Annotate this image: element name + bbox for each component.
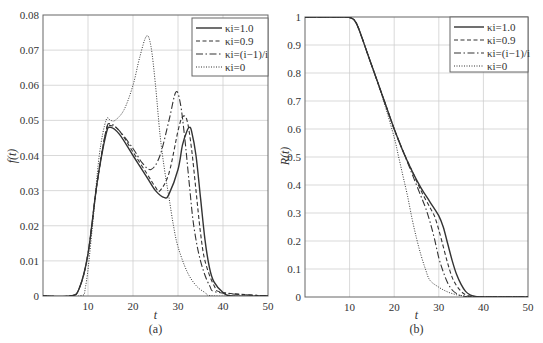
y-tick-label: 0.02 (20, 220, 39, 232)
y-tick-label: 0 (296, 291, 302, 303)
legend-label: κi=(i−1)/i (225, 48, 268, 61)
x-tick-label: 40 (478, 301, 490, 313)
y-tick-label: 0.08 (20, 9, 40, 21)
x-axis-label: t (415, 308, 419, 322)
y-tick-label: 0.8 (287, 67, 301, 79)
legend-label: κi=0.9 (487, 34, 516, 46)
legend: κi=1.0κi=0.9κi=(i−1)/iκi=0 (192, 18, 268, 76)
y-tick-label: 0.4 (287, 179, 301, 191)
panel-caption: (a) (149, 322, 162, 336)
x-tick-label: 30 (173, 300, 185, 312)
x-tick-label: 20 (389, 301, 401, 313)
y-axis-label: f(t) (5, 149, 19, 164)
x-axis-label: t (154, 308, 158, 322)
legend-label: κi=1.0 (487, 21, 516, 33)
y-tick-label: 0.05 (20, 114, 40, 126)
legend-label: κi=(i−1)/i (487, 47, 530, 60)
y-axis-label: R(t) (278, 147, 292, 167)
y-tick-label: 0.6 (287, 123, 301, 135)
x-tick-label: 20 (128, 300, 140, 312)
x-tick-label: 40 (218, 300, 230, 312)
series-line-dashdot (43, 92, 268, 297)
legend-label: κi=0.9 (225, 35, 254, 47)
y-tick-label: 0.07 (20, 44, 40, 56)
series-line-dashed (43, 116, 268, 297)
x-tick-label: 50 (523, 301, 535, 313)
x-tick-label: 10 (83, 300, 95, 312)
chart-panel-b: 102030405000.10.20.30.40.50.60.70.80.91t… (278, 11, 534, 336)
legend-label: κi=0 (225, 61, 246, 73)
legend-label: κi=1.0 (225, 22, 254, 34)
y-tick-label: 0.06 (20, 79, 40, 91)
series-line-solid (43, 127, 268, 296)
y-tick-label: 0.2 (287, 235, 301, 247)
legend: κi=1.0κi=0.9κi=(i−1)/iκi=0 (450, 17, 530, 72)
y-tick-label: 0.1 (287, 263, 301, 275)
x-tick-label: 50 (263, 300, 275, 312)
y-tick-label: 0.3 (287, 207, 301, 219)
legend-label: κi=0 (487, 60, 508, 72)
chart-panel-a: 102030405000.010.020.030.040.050.060.070… (5, 9, 274, 336)
y-tick-label: 0.03 (20, 185, 40, 197)
x-tick-label: 30 (433, 301, 445, 313)
y-tick-label: 0 (34, 290, 40, 302)
figure-canvas: 102030405000.010.020.030.040.050.060.070… (0, 0, 543, 343)
x-tick-label: 10 (344, 301, 356, 313)
panel-caption: (b) (410, 322, 424, 336)
y-tick-label: 0.9 (287, 39, 301, 51)
y-tick-label: 0.7 (287, 95, 301, 107)
y-tick-label: 1 (296, 11, 302, 23)
y-tick-label: 0.04 (20, 150, 40, 162)
y-tick-label: 0.01 (20, 255, 39, 267)
